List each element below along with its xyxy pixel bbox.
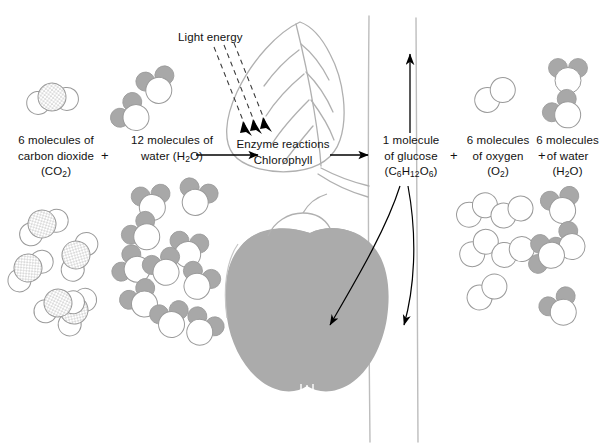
glucose-line-1: 1 molecule xyxy=(383,134,440,146)
water-right-line-2: of water xyxy=(547,150,589,162)
water-right-line-1: 6 molecules xyxy=(536,134,598,146)
water-left-label: 12 molecules of water (H2O) xyxy=(116,133,228,165)
water-right-molecule-group xyxy=(528,59,595,334)
water-right-label: 6 molecules of water (H2O) xyxy=(528,133,607,181)
plus-sign-2: + xyxy=(450,148,458,163)
water-left-line-1: 12 molecules of xyxy=(131,134,213,146)
glucose-curve-right xyxy=(404,186,414,325)
glucose-formula: (C6H12O6) xyxy=(384,165,437,177)
co2-line-2: carbon dioxide xyxy=(18,150,94,162)
oxygen-formula: (O2) xyxy=(487,165,509,177)
glucose-label: 1 molecule of glucose (C6H12O6) xyxy=(374,133,448,181)
fruit-apple xyxy=(225,194,388,397)
water-left-molecule-group xyxy=(107,63,228,353)
oxygen-molecule-group xyxy=(452,74,536,314)
leaf-petiole xyxy=(318,168,369,197)
enzyme-reactions-label: Enzyme reactions Chlorophyll xyxy=(228,137,338,168)
enzyme-reactions-text: Enzyme reactions xyxy=(237,138,330,150)
water-right-formula: (H2O) xyxy=(552,165,582,177)
co2-line-1: 6 molecules of xyxy=(18,134,94,146)
oxygen-line-1: 6 molecules xyxy=(467,134,529,146)
chlorophyll-text: Chlorophyll xyxy=(254,154,313,166)
oxygen-label: 6 molecules of oxygen (O2) xyxy=(459,133,537,181)
light-energy-label: Light energy xyxy=(178,30,243,46)
water-left-formula: water (H2O) xyxy=(141,150,203,162)
co2-formula: (CO2) xyxy=(41,165,71,177)
oxygen-line-2: of oxygen xyxy=(473,150,524,162)
co2-molecule-group xyxy=(0,80,102,341)
carbon-dioxide-label: 6 molecules of carbon dioxide (CO2) xyxy=(0,133,112,181)
light-ray-arrowheads xyxy=(240,117,272,136)
glucose-line-2: of glucose xyxy=(384,150,437,162)
plus-sign-1: + xyxy=(101,148,109,163)
diagram-canvas xyxy=(0,0,607,445)
photosynthesis-diagram: Light energy 6 molecules of carbon dioxi… xyxy=(0,0,607,445)
